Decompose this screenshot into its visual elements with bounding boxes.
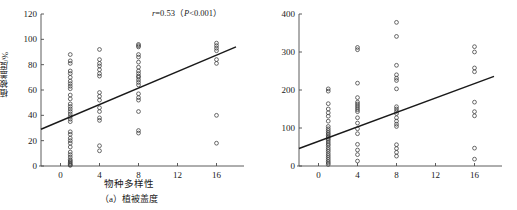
y-tick-label: 120 xyxy=(24,9,38,19)
data-point xyxy=(395,143,399,147)
data-point xyxy=(68,97,72,101)
data-point xyxy=(68,120,72,124)
x-axis-label-a: 物种多样性 xyxy=(69,180,189,190)
data-point xyxy=(473,146,477,150)
y-tick-label: 20 xyxy=(28,136,38,146)
y-tick-label: 300 xyxy=(282,47,296,57)
data-point xyxy=(395,150,399,154)
y-axis-label-a: 植被盖度/% xyxy=(1,52,10,97)
data-point xyxy=(473,50,477,54)
data-point xyxy=(98,110,102,114)
x-tick-label: 0 xyxy=(58,170,63,180)
data-point xyxy=(395,63,399,67)
data-point xyxy=(473,66,477,70)
data-points xyxy=(68,41,218,167)
data-point xyxy=(356,96,360,100)
data-point xyxy=(395,87,399,91)
data-point xyxy=(68,72,72,76)
data-point xyxy=(473,114,477,118)
data-point xyxy=(395,35,399,39)
data-point xyxy=(98,64,102,68)
data-point xyxy=(356,142,360,146)
data-point xyxy=(473,110,477,114)
data-point xyxy=(356,81,360,85)
data-point xyxy=(326,107,330,111)
data-point xyxy=(98,106,102,110)
data-point xyxy=(473,45,477,49)
data-point xyxy=(137,55,141,59)
y-tick-label: 0 xyxy=(33,161,38,171)
data-point xyxy=(137,92,141,96)
x-tick-label: 4 xyxy=(97,170,102,180)
data-point xyxy=(395,154,399,158)
x-tick-label: 16 xyxy=(212,170,222,180)
data-point xyxy=(98,119,102,123)
data-point xyxy=(98,58,102,62)
data-point xyxy=(68,93,72,97)
x-tick-label: 12 xyxy=(431,170,440,180)
data-point xyxy=(326,119,330,123)
data-point xyxy=(356,48,360,52)
data-point xyxy=(395,125,399,129)
data-point xyxy=(215,62,219,66)
annotation-r-value-a: =0.53（ xyxy=(155,8,184,18)
data-point xyxy=(326,102,330,106)
data-point xyxy=(473,100,477,104)
data-point xyxy=(215,113,219,117)
data-point xyxy=(98,68,102,72)
y-tick-label: 100 xyxy=(24,34,38,44)
x-tick-label: 4 xyxy=(355,170,360,180)
data-point xyxy=(137,65,141,69)
panel-b-productivity: 01002003004000481216 生物量/（g·m-2） r=0.52（… xyxy=(258,0,516,210)
x-tick-label: 0 xyxy=(316,170,321,180)
data-point xyxy=(68,53,72,57)
y-tick-label: 40 xyxy=(28,110,38,120)
data-point xyxy=(215,49,219,53)
data-point xyxy=(137,131,141,135)
x-tick-label: 12 xyxy=(173,170,182,180)
data-point xyxy=(68,87,72,91)
data-point xyxy=(98,48,102,52)
data-point xyxy=(68,145,72,149)
data-point xyxy=(356,116,360,120)
data-point xyxy=(395,147,399,151)
y-tick-label: 200 xyxy=(282,85,296,95)
data-points xyxy=(326,20,476,166)
y-tick-label: 80 xyxy=(28,60,38,70)
annotation-correlation-a: r=0.53（P<0.001） xyxy=(152,9,222,18)
data-point xyxy=(68,75,72,79)
data-point xyxy=(215,58,219,62)
data-point xyxy=(98,91,102,95)
data-point xyxy=(68,132,72,136)
data-point xyxy=(137,98,141,102)
data-point xyxy=(356,132,360,136)
data-point xyxy=(356,121,360,125)
x-tick-label: 8 xyxy=(394,170,399,180)
data-point xyxy=(98,144,102,148)
y-tick-label: 0 xyxy=(291,161,296,171)
data-point xyxy=(356,153,360,157)
y-tick-label: 100 xyxy=(282,123,296,133)
data-point xyxy=(68,62,72,66)
data-point xyxy=(215,141,219,145)
y-tick-label: 60 xyxy=(28,85,38,95)
data-point xyxy=(395,20,399,24)
data-point xyxy=(395,79,399,83)
data-point xyxy=(68,141,72,145)
annotation-p-value-a: <0.001） xyxy=(189,8,222,18)
data-point xyxy=(98,94,102,98)
data-point xyxy=(98,74,102,78)
data-point xyxy=(137,83,141,87)
x-tick-label: 16 xyxy=(470,170,480,180)
data-point xyxy=(326,89,330,93)
figure-scatter-panels: 0204060801001200481216 植被盖度/% r=0.53（P<0… xyxy=(0,0,517,210)
plot-area-b: 01002003004000481216 xyxy=(258,0,516,210)
data-point xyxy=(98,149,102,153)
data-point xyxy=(356,159,360,163)
data-point xyxy=(473,70,477,74)
data-point xyxy=(98,98,102,102)
data-point xyxy=(473,157,477,161)
panel-a-vegetation-cover: 0204060801001200481216 植被盖度/% r=0.53（P<0… xyxy=(0,0,258,210)
data-point xyxy=(137,60,141,64)
caption-a: （a）植被盖度 xyxy=(69,195,189,204)
